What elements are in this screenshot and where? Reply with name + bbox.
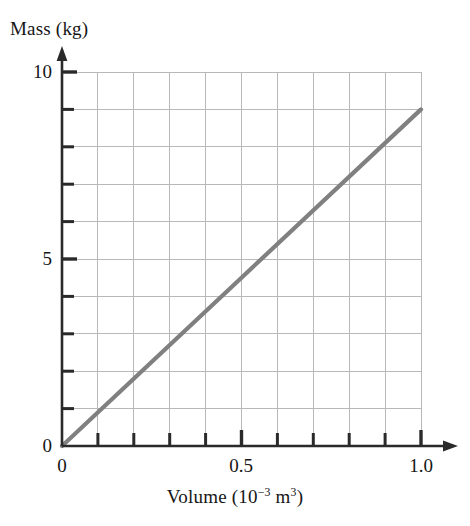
y-tick-label-0: 0 — [14, 435, 52, 457]
x-axis-title-suffix: ) — [297, 486, 304, 507]
mass-volume-chart-figure: Mass (kg) — [0, 0, 470, 526]
x-axis-ticks — [98, 430, 421, 446]
x-tick-label-0-5: 0.5 — [229, 455, 253, 477]
y-tick-label-10: 10 — [14, 61, 52, 83]
y-axis-arrowhead — [57, 46, 68, 61]
x-axis-arrowhead — [443, 441, 458, 452]
x-tick-label-1-0: 1.0 — [409, 455, 433, 477]
x-axis-title-prefix: Volume (10 — [167, 486, 258, 507]
x-axis-title-exponent-minus-three: −3 — [258, 486, 271, 499]
x-tick-label-0: 0 — [57, 455, 67, 477]
x-axis-title-middle: m — [271, 486, 291, 507]
y-axis-ticks — [62, 72, 77, 409]
x-axis-title: Volume (10−3 m3) — [0, 486, 470, 508]
plot-canvas — [0, 0, 470, 526]
y-tick-label-5: 5 — [14, 248, 52, 270]
